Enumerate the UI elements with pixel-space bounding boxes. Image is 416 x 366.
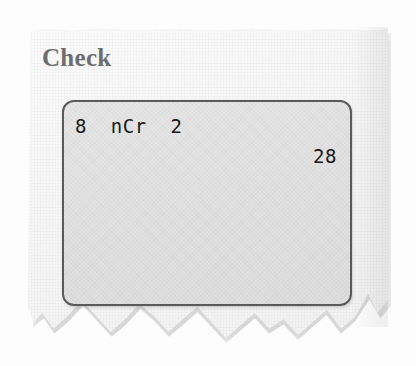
calc-result-line: 28	[75, 141, 337, 171]
screenshot-root: Check 8 nCr 2 28	[0, 0, 416, 366]
page-title: Check	[42, 44, 112, 72]
calc-entry-line: 8 nCr 2	[75, 111, 337, 141]
calculator-screen: 8 nCr 2 28	[62, 100, 352, 306]
